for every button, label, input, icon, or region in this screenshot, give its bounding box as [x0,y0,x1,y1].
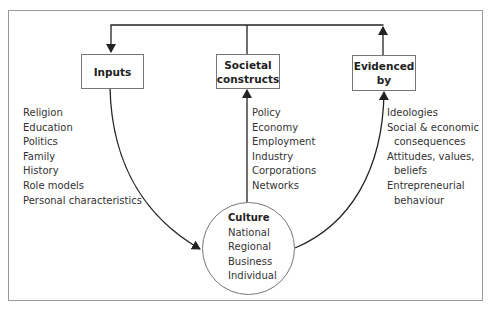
inputs-list: Religion Education Politics Family Histo… [23,106,142,208]
top-loop-connector [111,25,384,55]
culture-item: Individual [228,269,277,284]
list-item: Networks [252,179,316,194]
culture-item: National [228,226,277,241]
evidenced-by-label-line-2: by [354,73,415,87]
list-item-continuation: consequences [387,135,479,150]
list-item: Economy [252,121,316,136]
societal-constructs-box: Societal constructs [216,54,280,89]
culture-title: Culture [228,211,277,226]
list-item-continuation: behaviour [387,194,479,209]
list-item: Corporations [252,164,316,179]
list-item-continuation: beliefs [387,164,479,179]
list-item: Employment [252,135,316,150]
list-item: Religion [23,106,142,121]
list-item: Personal characteristics [23,194,142,209]
list-item: Industry [252,150,316,165]
culture-framework-diagram: Inputs Societal constructs Evidenced by … [0,0,494,311]
list-item: History [23,164,142,179]
list-item: Policy [252,106,316,121]
societal-constructs-list: Policy Economy Employment Industry Corpo… [252,106,316,194]
list-item: Attitudes, values, [387,150,479,165]
list-item: Education [23,121,142,136]
evidenced-by-box: Evidenced by [352,55,416,91]
societal-constructs-label-line-1: Societal [217,58,279,72]
evidenced-by-list: Ideologies Social & economic consequence… [387,106,479,208]
list-item: Role models [23,179,142,194]
list-item: Social & economic [387,121,479,136]
culture-item: Regional [228,240,277,255]
inputs-box-label: Inputs [94,65,132,79]
culture-item: Business [228,255,277,270]
societal-constructs-label-line-2: constructs [217,72,279,86]
evidenced-by-label-line-1: Evidenced [354,59,415,73]
culture-circle-content: Culture National Regional Business Indiv… [228,211,277,284]
list-item: Entrepreneurial [387,179,479,194]
list-item: Family [23,150,142,165]
list-item: Ideologies [387,106,479,121]
inputs-box: Inputs [81,54,144,89]
list-item: Politics [23,135,142,150]
